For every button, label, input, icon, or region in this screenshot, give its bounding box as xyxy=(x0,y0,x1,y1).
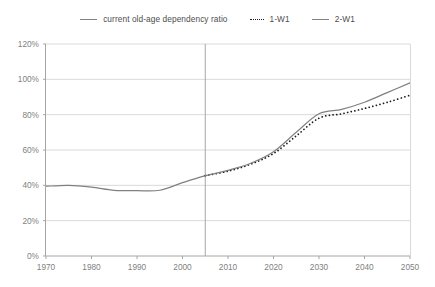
x-axis-tick-labels: 197019801990200020102020203020402050 xyxy=(37,262,420,272)
x-axis-tick-label: 2000 xyxy=(173,262,192,272)
x-axis-tick-label: 1980 xyxy=(82,262,101,272)
y-axis-tick-label: 20% xyxy=(22,216,39,226)
series-line xyxy=(46,176,205,191)
y-axis-tick-label: 60% xyxy=(22,145,39,155)
y-axis-tick-label: 80% xyxy=(22,110,39,120)
y-axis-tick-label: 0% xyxy=(27,251,40,261)
x-axis-tick-label: 1970 xyxy=(37,262,56,272)
x-axis-tick-label: 2030 xyxy=(310,262,329,272)
gridlines xyxy=(46,44,410,256)
x-axis-tick-label: 2010 xyxy=(219,262,238,272)
x-axis-tick-label: 2040 xyxy=(355,262,374,272)
chart-svg: 0%20%40%60%80%100%120% 19701980199020002… xyxy=(0,0,435,287)
y-axis-tick-labels: 0%20%40%60%80%100%120% xyxy=(18,39,40,261)
x-axis-tick-label: 2050 xyxy=(401,262,420,272)
series-line xyxy=(205,95,410,175)
x-axis-tick-label: 1990 xyxy=(128,262,147,272)
y-axis-tick-label: 40% xyxy=(22,180,39,190)
data-series-layer xyxy=(46,83,410,191)
y-axis-tick-label: 120% xyxy=(18,39,40,49)
x-axis-tick-label: 2020 xyxy=(264,262,283,272)
series-line xyxy=(205,83,410,176)
chart-container: current old-age dependency ratio 1-W1 2-… xyxy=(0,0,435,287)
plot-area: 0%20%40%60%80%100%120% 19701980199020002… xyxy=(0,0,435,287)
y-axis-tick-label: 100% xyxy=(18,74,40,84)
